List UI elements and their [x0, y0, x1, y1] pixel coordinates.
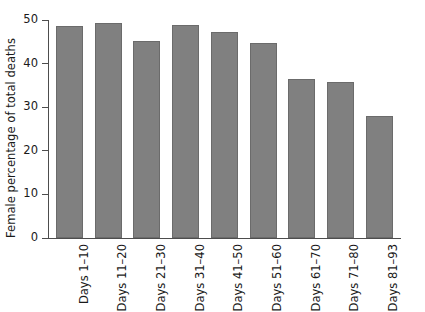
bar [172, 25, 199, 238]
bar [95, 23, 122, 238]
x-axis-tick-label: Days 51–60 [270, 244, 284, 312]
bar [366, 116, 393, 238]
y-axis-tick-label: 40 [0, 58, 38, 70]
y-axis-tick-label: 50 [0, 14, 38, 26]
x-axis-tick-label: Days 41–50 [231, 244, 245, 312]
y-axis-tick-label: 20 [0, 145, 38, 157]
y-axis-tick [42, 107, 48, 108]
bar-chart: Female percentage of total deaths 010203… [0, 0, 425, 312]
y-axis-tick-label: 0 [0, 232, 38, 244]
bar [250, 43, 277, 238]
bar [133, 41, 160, 238]
x-axis-tick-label: Days 1–10 [77, 244, 91, 312]
bar [211, 32, 238, 238]
x-axis-tick-label: Days 81–93 [386, 244, 400, 312]
y-axis-tick [42, 20, 48, 21]
x-axis-tick-label: Days 61–70 [309, 244, 323, 312]
y-axis-tick [42, 150, 48, 151]
x-axis-tick-label: Days 71–80 [347, 244, 361, 312]
y-axis-tick [42, 63, 48, 64]
y-axis-tick [42, 194, 48, 195]
y-axis-tick-label: 30 [0, 101, 38, 113]
bar [56, 26, 83, 238]
y-axis-tick-label: 10 [0, 188, 38, 200]
x-axis-tick-label: Days 31–40 [193, 244, 207, 312]
y-axis-title: Female percentage of total deaths [3, 12, 19, 264]
y-axis-tick [42, 238, 48, 239]
x-axis-tick-label: Days 21–30 [154, 244, 168, 312]
x-axis-tick-label: Days 11–20 [115, 244, 129, 312]
bar [288, 79, 315, 238]
x-axis-line [49, 238, 401, 239]
bar [327, 82, 354, 238]
y-axis-line [48, 20, 49, 239]
